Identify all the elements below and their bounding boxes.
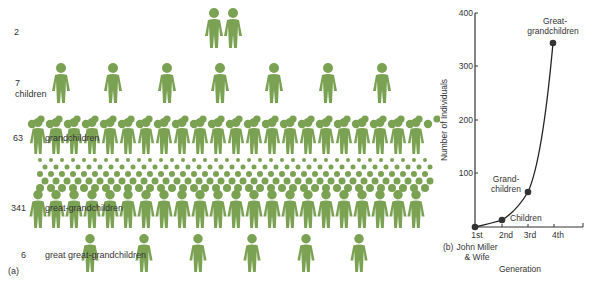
annotation-grand1: Grand- [493,174,520,184]
row-label-great-great-grandchildren: great great-grandchildren [45,250,146,260]
person-icon [189,234,206,272]
point-gen1 [472,224,479,231]
point-gen4 [550,40,557,47]
person-icon [243,234,260,272]
growth-curve [475,43,553,227]
person-icon [407,190,424,228]
person-icon [209,190,226,228]
person-icon [297,234,314,272]
person-icon [319,63,337,103]
person-icon [350,234,367,272]
person-icon [371,190,388,228]
point-gen3 [525,189,532,196]
row-count-great-great-grandchildren: 6 [21,250,26,260]
annotation-great2: grandchildren [527,26,579,36]
annotation-children: Children [510,213,542,223]
row-count-great-grandchildren: 341 [11,203,26,213]
person-icon [191,190,208,228]
person-icon [389,190,406,228]
person-icon [104,63,122,103]
person-icon [158,63,176,103]
ytick-200: 200 [459,115,473,125]
ytick-100: 100 [459,168,473,178]
person-icon [29,190,46,228]
person-icon [317,190,334,228]
row-count-grandchildren: 63 [13,133,23,143]
person-icon [52,63,70,103]
x0-label-line2: & Wife [464,252,489,262]
row-label-great-grandchildren: great-grandchildren [45,203,123,213]
person-icon [265,63,283,103]
xtick-4th: 4th [552,230,564,240]
annotation-great1: Great- [543,16,567,26]
xtick-2nd: 2nd [499,230,513,240]
xtick-1st: 1st [471,230,483,240]
person-icon [173,190,190,228]
ytick-400: 400 [459,8,473,18]
person-icon [224,8,242,48]
person-icon [155,190,172,228]
x0-label-line1: John Miller [456,242,497,252]
panel-b-label: (b) [443,242,454,252]
person-icon [353,190,370,228]
xtick-3rd: 3rd [524,230,537,240]
ytick-300: 300 [459,61,473,71]
person-icon [263,190,280,228]
annotation-grand2: children [491,184,521,194]
person-icon [227,190,244,228]
growth-chart: 400 300 200 100 1st 2nd 3rd 4th John Mil… [440,0,593,290]
person-icon [137,190,154,228]
row-label-grandchildren: grandchildren [45,133,100,143]
person-icon [245,190,262,228]
person-figures [0,0,440,290]
person-icon [211,63,229,103]
panel-a-label: (a) [8,266,19,276]
person-icon [281,190,298,228]
pictograph [0,0,440,290]
point-gen2 [499,217,506,224]
y-axis-title: Number of Individuals [440,79,449,161]
person-icon [205,8,223,48]
person-icon [335,190,352,228]
person-icon [373,63,391,103]
person-icon [299,190,316,228]
x-axis-title: Generation [499,264,541,274]
